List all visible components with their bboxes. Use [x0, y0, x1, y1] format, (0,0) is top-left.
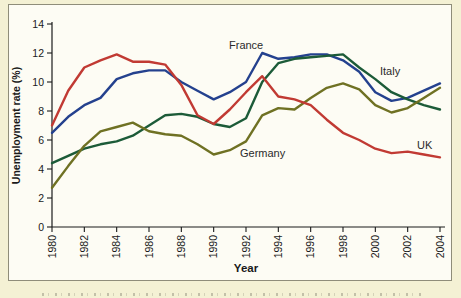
y-tick-label: 10: [32, 76, 44, 88]
y-tick-label: 0: [38, 221, 44, 233]
y-tick-label: 14: [32, 18, 44, 30]
unemployment-chart-figure: 0246810121419801982198419861988199019921…: [0, 0, 461, 298]
x-tick-label: 1988: [175, 235, 187, 259]
x-tick-label: 1982: [78, 235, 90, 259]
x-tick-label: 1992: [240, 235, 252, 259]
y-tick-label: 12: [32, 47, 44, 59]
x-tick-label: 2004: [434, 235, 446, 259]
series-label-france: France: [229, 39, 263, 51]
x-tick-label: 2002: [401, 235, 413, 259]
x-axis-title: Year: [234, 262, 259, 274]
y-tick-label: 8: [38, 105, 44, 117]
x-tick-label: 1994: [272, 235, 284, 259]
unemployment-line-chart: 0246810121419801982198419861988199019921…: [0, 0, 461, 298]
x-tick-label: 1986: [143, 235, 155, 259]
y-tick-label: 4: [38, 163, 44, 175]
y-tick-label: 6: [38, 134, 44, 146]
y-axis-title: Unemployment rate (%): [10, 67, 22, 184]
x-tick-label: 1984: [110, 235, 122, 259]
series-line-germany: [52, 83, 440, 187]
y-tick-label: 2: [38, 192, 44, 204]
x-tick-label: 1980: [46, 235, 58, 259]
x-tick-label: 2000: [369, 235, 381, 259]
x-tick-label: 1998: [337, 235, 349, 259]
series-label-italy: Italy: [380, 65, 401, 77]
x-tick-label: 1996: [304, 235, 316, 259]
x-tick-label: 1990: [207, 235, 219, 259]
cropped-caption-fragment: [42, 293, 422, 296]
series-label-germany: Germany: [240, 147, 286, 159]
series-label-uk: UK: [417, 139, 433, 151]
